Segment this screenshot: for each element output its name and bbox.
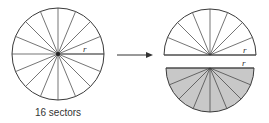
bottom-half-sectors-shaded: r bbox=[166, 58, 254, 112]
sectors-caption: 16 sectors bbox=[35, 107, 81, 118]
radius-label-top: r bbox=[243, 45, 247, 55]
radius-label-left: r bbox=[83, 44, 87, 54]
top-half-sectors: r bbox=[164, 9, 256, 55]
sector-diagram: r 16 sectors r r bbox=[0, 0, 269, 123]
arrow-icon bbox=[117, 52, 153, 58]
full-circle-16-sectors: r bbox=[12, 8, 104, 100]
radius-label-bottom: r bbox=[242, 58, 246, 68]
